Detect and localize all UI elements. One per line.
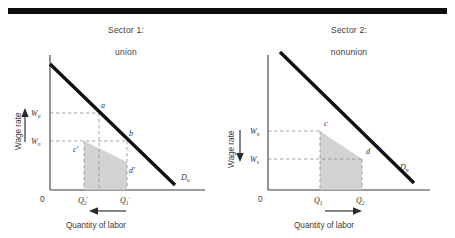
wage-label-lower-sector-2: Ws (250, 155, 259, 165)
quantity-arrow-head-sector-2 (353, 207, 362, 214)
wage-arrow-head-sector-1 (21, 108, 28, 117)
point-label-d: d (366, 147, 371, 156)
chart-svg-sector-1: Du Wu Wn a b c′ d′ 0 Q2′ Q1′ Quantity of… (0, 0, 228, 238)
demand-label-sector-2: Dn (399, 163, 409, 173)
origin-label-sector-1: 0 (40, 195, 45, 204)
origin-label-sector-2: 0 (258, 195, 263, 204)
point-label-a: a (101, 101, 105, 110)
demand-label-sector-1: Du (180, 173, 190, 183)
wage-label-upper-sector-2: Wn (250, 127, 260, 137)
quantity-label-left-sector-2: Q1 (314, 196, 323, 206)
panel-sector-1: Sector 1: union Wage rate Du Wu Wn a b c… (0, 0, 228, 238)
point-label-d-prime: d′ (129, 166, 135, 175)
point-label-b: b (129, 129, 133, 138)
x-axis-label-sector-1: Quantity of labor (66, 221, 126, 230)
shaded-area-sector-1 (84, 141, 127, 190)
quantity-label-left-sector-1: Q2′ (78, 196, 89, 206)
chart-svg-sector-2: Dn Wn Ws c d 0 Q1 Q2 Quantity of labor (228, 0, 455, 238)
wage-label-lower-sector-1: Wn (31, 137, 41, 147)
panel-sector-2: Sector 2: nonunion Wage rate Dn Wn Ws c … (228, 0, 455, 238)
point-label-c: c (324, 119, 328, 128)
wage-label-upper-sector-1: Wu (31, 109, 41, 119)
point-label-c-prime: c′ (73, 145, 79, 154)
quantity-label-right-sector-2: Q2 (356, 196, 365, 206)
quantity-arrow-head-sector-1 (89, 207, 98, 214)
x-axis-label-sector-2: Quantity of labor (294, 221, 354, 230)
wage-arrow-head-sector-2 (236, 153, 243, 162)
shaded-area-sector-2 (320, 131, 362, 190)
quantity-label-right-sector-1: Q1′ (120, 196, 131, 206)
